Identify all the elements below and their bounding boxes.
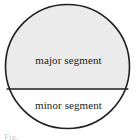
major-segment-label: major segment: [0, 54, 137, 66]
figure-caption: Fig.: [4, 133, 134, 140]
circle-segment-figure: major segment minor segment Fig.: [0, 0, 137, 140]
major-segment-region: [0, 0, 137, 89]
circle-diagram-svg: [0, 0, 137, 140]
minor-segment-label: minor segment: [0, 99, 137, 111]
